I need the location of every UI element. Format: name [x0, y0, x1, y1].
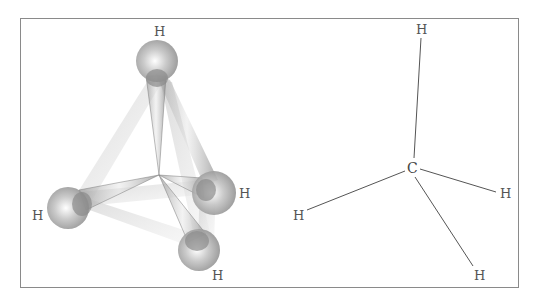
bond-line-bottom	[415, 177, 473, 266]
label-h-bottom-3d: H	[212, 268, 223, 283]
bond-cone-top	[146, 76, 166, 175]
bond-cap-bottom	[185, 231, 209, 251]
label-h-right: H	[500, 186, 511, 201]
label-h-left-3d: H	[32, 208, 43, 223]
bond-cap-right	[196, 179, 216, 201]
methane-figure: H H H H C H H H H	[0, 0, 534, 303]
bond-line-top	[414, 38, 421, 158]
label-h-left: H	[293, 208, 304, 223]
line-structure	[307, 38, 496, 266]
tetrahedron-3d-model	[47, 40, 236, 271]
bond-line-right	[420, 169, 496, 192]
label-h-bottom: H	[474, 268, 485, 283]
label-h-top: H	[416, 22, 427, 37]
label-h-top-3d: H	[154, 24, 165, 39]
label-c: C	[407, 160, 418, 176]
bond-cap-left	[72, 192, 92, 216]
bond-line-left	[307, 171, 405, 210]
label-h-right-3d: H	[239, 186, 250, 201]
bond-cap-top	[146, 69, 168, 87]
line-labels: C H H H H	[293, 22, 511, 283]
